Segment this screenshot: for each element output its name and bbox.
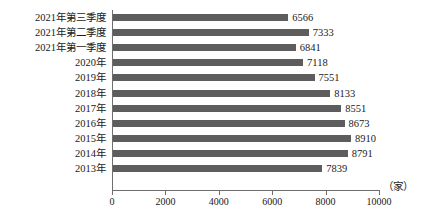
bar — [113, 14, 288, 21]
bar-value-label: 6566 — [292, 10, 313, 25]
bar-row: 2013年7839 — [0, 161, 426, 176]
bar-value-label: 7551 — [319, 70, 340, 85]
x-axis-tick — [272, 191, 273, 195]
bar-value-label: 8910 — [355, 131, 376, 146]
bar — [113, 29, 309, 36]
category-label: 2021年第二季度 — [0, 25, 106, 40]
bar — [113, 120, 345, 127]
bar-row: 2021年第二季度7333 — [0, 25, 426, 40]
x-axis-tick-label: 6000 — [242, 196, 302, 208]
bar — [113, 74, 315, 81]
x-axis-tick — [112, 191, 113, 195]
category-label: 2020年 — [0, 55, 106, 70]
x-axis-tick — [379, 191, 380, 195]
bar-value-label: 7118 — [307, 55, 328, 70]
x-axis-tick-label: 0 — [82, 196, 142, 208]
x-axis-tick-label: 8000 — [296, 196, 356, 208]
category-label: 2018年 — [0, 86, 106, 101]
bar-value-label: 8133 — [334, 86, 355, 101]
x-axis-tick-label: 4000 — [189, 196, 249, 208]
bar-row: 2015年8910 — [0, 131, 426, 146]
category-label: 2021年第三季度 — [0, 10, 106, 25]
unit-label: （家） — [383, 180, 413, 193]
bar-value-label: 8551 — [345, 101, 366, 116]
bar-chart: 0200040006000800010000 2021年第三季度65662021… — [0, 0, 426, 220]
category-label: 2019年 — [0, 70, 106, 85]
bar — [113, 105, 341, 112]
bar — [113, 150, 348, 157]
category-label: 2016年 — [0, 116, 106, 131]
bar-value-label: 7333 — [313, 25, 334, 40]
bar-value-label: 6841 — [300, 40, 321, 55]
bar-value-label: 8673 — [349, 116, 370, 131]
bar-row: 2019年7551 — [0, 70, 426, 85]
bar — [113, 135, 351, 142]
category-label: 2013年 — [0, 161, 106, 176]
category-label: 2017年 — [0, 101, 106, 116]
bar-row: 2021年第一季度6841 — [0, 40, 426, 55]
bar-row: 2017年8551 — [0, 101, 426, 116]
x-axis-tick — [165, 191, 166, 195]
x-axis-tick-label: 10000 — [349, 196, 409, 208]
bar — [113, 90, 330, 97]
bar-value-label: 7839 — [326, 161, 347, 176]
bar — [113, 44, 296, 51]
bar-row: 2016年8673 — [0, 116, 426, 131]
x-axis-tick — [219, 191, 220, 195]
bar — [113, 165, 322, 172]
x-axis-tick — [326, 191, 327, 195]
bar-row: 2021年第三季度6566 — [0, 10, 426, 25]
category-label: 2021年第一季度 — [0, 40, 106, 55]
bar-value-label: 8791 — [352, 146, 373, 161]
category-label: 2014年 — [0, 146, 106, 161]
category-label: 2015年 — [0, 131, 106, 146]
bar-row: 2020年7118 — [0, 55, 426, 70]
bar-row: 2014年8791 — [0, 146, 426, 161]
x-axis-line — [112, 190, 380, 191]
bar — [113, 59, 303, 66]
x-axis-tick-label: 2000 — [135, 196, 195, 208]
bar-row: 2018年8133 — [0, 86, 426, 101]
